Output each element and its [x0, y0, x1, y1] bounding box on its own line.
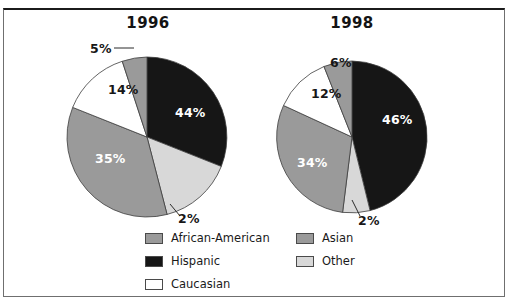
chart-title-1998: 1998 [307, 14, 397, 32]
value-label-1998-caucasian: 12% [311, 86, 342, 101]
legend-item-hispanic[interactable]: Hispanic [145, 254, 220, 268]
legend-swatch-african-american [145, 233, 163, 244]
value-label-1996-hispanic: 44% [175, 105, 206, 120]
legend-label-african-american: African-American [171, 231, 270, 245]
value-label-1998-african-american: 34% [297, 155, 328, 170]
legend-swatch-other [296, 256, 314, 267]
value-label-1998-other: 2% [358, 213, 380, 228]
legend-label-hispanic: Hispanic [171, 254, 220, 268]
value-label-1996-other: 2% [178, 211, 200, 226]
legend-item-asian[interactable]: Asian [296, 231, 353, 245]
value-label-1998-asian: 6% [330, 55, 352, 70]
legend-swatch-hispanic [145, 256, 163, 267]
legend-label-caucasian: Caucasian [171, 277, 230, 291]
value-label-1998-hispanic: 46% [382, 112, 413, 127]
value-label-1996-caucasian: 14% [108, 82, 139, 97]
pie-charts-svg [0, 0, 510, 303]
figure-container: 1996 1998 44% 2% 35% 14% 5% 46% 2% 34% 1… [0, 0, 510, 303]
legend-item-caucasian[interactable]: Caucasian [145, 277, 230, 291]
legend-swatch-caucasian [145, 279, 163, 290]
value-label-1996-asian: 5% [90, 41, 112, 56]
legend-swatch-asian [296, 233, 314, 244]
pie-chart-1998 [277, 61, 427, 216]
pie-chart-1996 [67, 48, 227, 217]
chart-title-1996: 1996 [103, 14, 193, 32]
legend-item-african-american[interactable]: African-American [145, 231, 270, 245]
legend-label-other: Other [322, 254, 355, 268]
legend-item-other[interactable]: Other [296, 254, 355, 268]
legend-label-asian: Asian [322, 231, 353, 245]
value-label-1996-african-american: 35% [95, 151, 126, 166]
